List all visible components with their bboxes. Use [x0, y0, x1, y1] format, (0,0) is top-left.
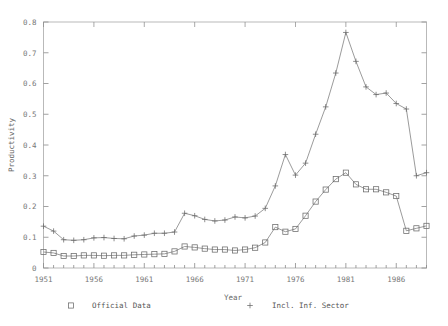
legend-label: Incl. Inf. Sector — [272, 301, 349, 310]
chart-figure: 00.10.20.30.40.50.60.70.8 19511956196119… — [0, 0, 448, 326]
x-tick-label: 1981 — [337, 275, 355, 284]
x-tick-label: 1951 — [34, 275, 52, 284]
y-tick-label: 0 — [32, 264, 37, 273]
y-tick-label: 0.2 — [23, 202, 37, 211]
productivity-line-chart: 00.10.20.30.40.50.60.70.8 19511956196119… — [0, 0, 448, 326]
y-tick-label: 0.3 — [23, 172, 37, 181]
x-tick-label: 1986 — [387, 275, 406, 284]
x-tick-label: 1966 — [186, 275, 205, 284]
legend-label: Official Data — [92, 301, 151, 310]
y-axis-title: Productivity — [7, 117, 16, 172]
x-tick-label: 1956 — [85, 275, 104, 284]
x-tick-label: 1971 — [236, 275, 254, 284]
chart-background — [0, 0, 448, 326]
y-tick-label: 0.5 — [23, 110, 37, 119]
y-tick-label: 0.7 — [23, 49, 37, 58]
y-axis-tick-labels: 00.10.20.30.40.50.60.70.8 — [23, 18, 37, 273]
x-tick-label: 1961 — [135, 275, 153, 284]
y-tick-label: 0.4 — [23, 141, 37, 150]
x-tick-label: 1976 — [286, 275, 305, 284]
y-tick-label: 0.6 — [23, 79, 37, 88]
y-tick-label: 0.1 — [23, 233, 37, 242]
y-tick-label: 0.8 — [23, 18, 37, 27]
x-axis-title: Year — [224, 293, 243, 302]
